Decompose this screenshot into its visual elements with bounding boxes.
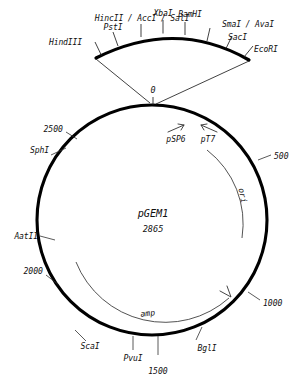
fan-line-left bbox=[96, 59, 150, 103]
polylinker-label-saci: SacI bbox=[228, 32, 247, 42]
polylinker-label-smai-avai: SmaI / AvaI bbox=[222, 19, 274, 29]
outer-label-scai: ScaI bbox=[81, 341, 100, 351]
polylinker-arc bbox=[96, 38, 249, 60]
polylinker-tick-smai bbox=[207, 28, 210, 41]
scale-label-2500: 2500 bbox=[44, 124, 64, 134]
outer-label-aatii: AatII bbox=[13, 231, 38, 241]
polylinker-tick-hindiii bbox=[95, 42, 102, 56]
zero-label: 0 bbox=[150, 85, 155, 95]
polylinker-label-ecori: EcoRI bbox=[254, 44, 278, 54]
outer-label-pvui: PvuI bbox=[124, 353, 143, 363]
outer-label-sphi: SphI bbox=[30, 145, 49, 155]
polylinker-label-bamhi: BamHI bbox=[178, 9, 202, 19]
leader-scai bbox=[75, 330, 86, 341]
scale-label-1500: 1500 bbox=[148, 366, 168, 376]
leader-bgli bbox=[196, 327, 202, 340]
polylinker-label-hincii-acci-sali: HincII / AccI / SalI bbox=[94, 13, 190, 23]
scale-label-500: 500 bbox=[274, 151, 289, 161]
polylinker-label-hindiii: HindIII bbox=[48, 37, 82, 47]
plasmid-size-label: 2865 bbox=[143, 224, 164, 234]
scale-label-2000: 2000 bbox=[24, 266, 44, 276]
polylinker-label-psti: PstI bbox=[104, 22, 123, 32]
fan-line-right bbox=[156, 61, 249, 104]
plasmid-map-canvas: 0 HindIII PstI HincII / AccI / SalI XbaI… bbox=[0, 0, 303, 383]
outer-label-bgli: BglI bbox=[198, 343, 217, 353]
gene-label-ori: ori bbox=[237, 187, 250, 203]
amp-arrow-head bbox=[220, 286, 231, 297]
plasmid-backbone-circle bbox=[37, 105, 267, 335]
promoter-label-psp6: pSP6 bbox=[165, 135, 185, 144]
leader-1000 bbox=[248, 292, 260, 300]
leader-500 bbox=[258, 155, 271, 160]
leader-aatii bbox=[40, 236, 55, 240]
polylinker-tick-psti bbox=[113, 32, 118, 46]
promoter-label-pt7: pT7 bbox=[200, 135, 216, 144]
gene-label-amp: amp bbox=[140, 307, 156, 318]
plasmid-map-figure: 0 HindIII PstI HincII / AccI / SalI XbaI… bbox=[0, 0, 303, 383]
scale-label-1000: 1000 bbox=[263, 298, 283, 308]
polylinker-tick-ecori bbox=[244, 46, 253, 57]
plasmid-name-label: pGEM1 bbox=[137, 208, 169, 219]
polylinker-label-xbai: XbaI bbox=[153, 8, 173, 18]
